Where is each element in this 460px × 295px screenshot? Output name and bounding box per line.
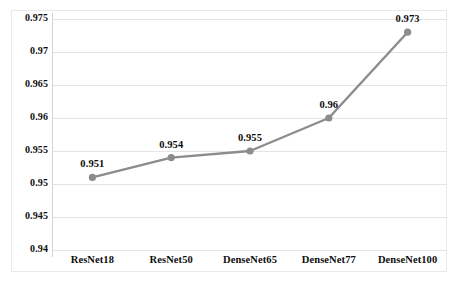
y-axis-tick-label: 0.97	[30, 45, 48, 56]
gridline	[53, 250, 447, 251]
gridline	[53, 52, 447, 53]
y-axis-tick-label: 0.95	[30, 177, 48, 188]
y-axis-tick-label: 0.94	[30, 243, 48, 254]
gridline	[53, 217, 447, 218]
gridline	[53, 85, 447, 86]
gridline	[53, 19, 447, 20]
x-axis-tick-label: ResNet50	[150, 254, 193, 265]
data-point-label: 0.954	[159, 139, 183, 150]
y-axis-tick-label: 0.955	[25, 144, 48, 155]
data-point-label: 0.96	[319, 99, 338, 110]
gridline	[53, 151, 447, 152]
line-chart: 0.940.9450.950.9550.960.9650.970.975 Res…	[0, 0, 460, 295]
y-axis-tick-label: 0.975	[25, 12, 48, 23]
x-axis-tick-label: DenseNet65	[223, 254, 277, 265]
data-point-label: 0.951	[80, 158, 104, 169]
data-point-label: 0.955	[238, 132, 262, 143]
x-axis-tick-label: DenseNet100	[378, 254, 437, 265]
y-axis-tick-label: 0.945	[25, 210, 48, 221]
gridline	[53, 184, 447, 185]
data-point-label: 0.973	[396, 13, 420, 24]
y-axis-tick-label: 0.96	[30, 111, 48, 122]
x-axis-tick-label: DenseNet77	[302, 254, 356, 265]
x-axis-tick-label: ResNet18	[71, 254, 114, 265]
y-axis-tick-label: 0.965	[25, 78, 48, 89]
gridline	[53, 118, 447, 119]
